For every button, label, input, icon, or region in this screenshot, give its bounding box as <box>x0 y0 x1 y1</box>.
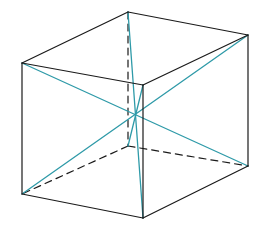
space-diagonals <box>22 12 248 218</box>
space-diagonal-BH <box>128 85 143 146</box>
hidden-edge-HG <box>128 146 248 166</box>
edge-AB <box>22 63 143 85</box>
edge-FB <box>143 35 248 85</box>
edge-CD <box>22 194 143 218</box>
hidden-edge-HD <box>22 146 128 194</box>
cube-diagram <box>0 0 262 231</box>
edge-AE <box>22 12 128 63</box>
edge-GC <box>143 166 248 218</box>
edge-EF <box>128 12 248 35</box>
